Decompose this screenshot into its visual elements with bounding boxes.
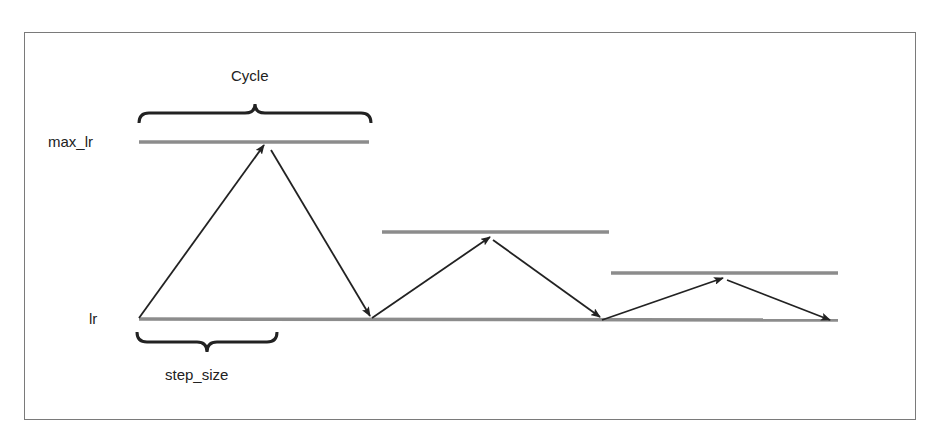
arrow-up-2 [372,237,490,318]
arrow-up-1 [139,145,264,318]
cycle-brace-icon [139,104,371,123]
lr-label: lr [89,310,97,327]
step-size-label: step_size [165,366,228,383]
clr-diagram [0,0,940,444]
cycle-label: Cycle [231,67,269,84]
level-lines [139,142,838,320]
arrow-up-3 [602,278,723,320]
arrow-down-2 [493,240,600,317]
max-lr-label: max_lr [48,133,93,150]
baseline-lr-line [139,319,838,320]
arrow-down-3 [727,280,830,320]
arrow-down-1 [271,150,370,316]
step-size-brace-icon [137,332,277,352]
